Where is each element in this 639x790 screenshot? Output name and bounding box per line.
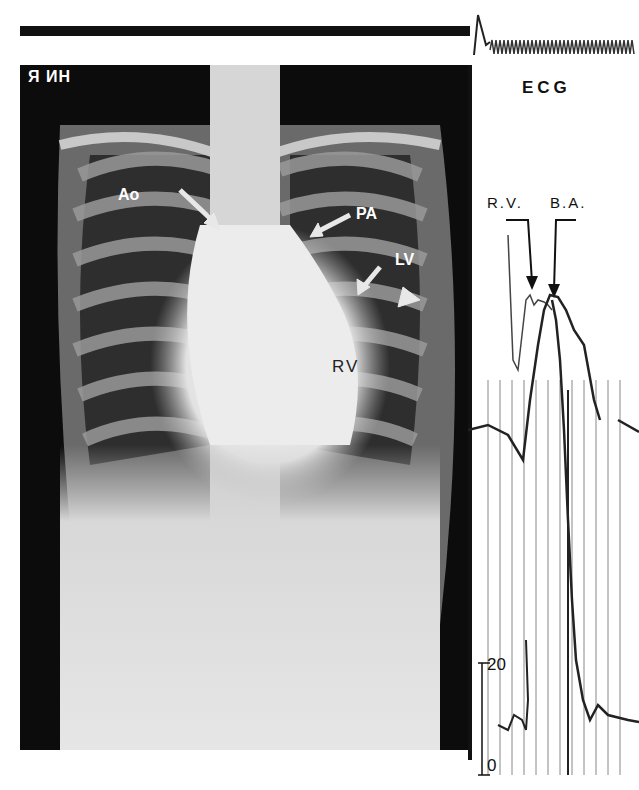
label-left-ventricle: LV xyxy=(395,251,414,269)
scale-label-0: 0 xyxy=(487,756,496,776)
label-right-ventricle: RV xyxy=(332,357,359,377)
xray-drawing xyxy=(20,65,468,750)
rv-trace-label: R.V. xyxy=(487,194,523,211)
label-pulmonary-artery: PA xyxy=(356,205,377,223)
film-orientation-marker: Я ИН xyxy=(28,68,71,86)
chest-xray: Я ИН Ao PA LV RV xyxy=(20,65,468,750)
scale-label-20: 20 xyxy=(487,655,506,675)
film-top-edge xyxy=(20,26,470,36)
ecg-label: ECG xyxy=(522,78,571,98)
label-aorta: Ao xyxy=(118,186,139,204)
ba-trace-label: B.A. xyxy=(550,194,586,211)
